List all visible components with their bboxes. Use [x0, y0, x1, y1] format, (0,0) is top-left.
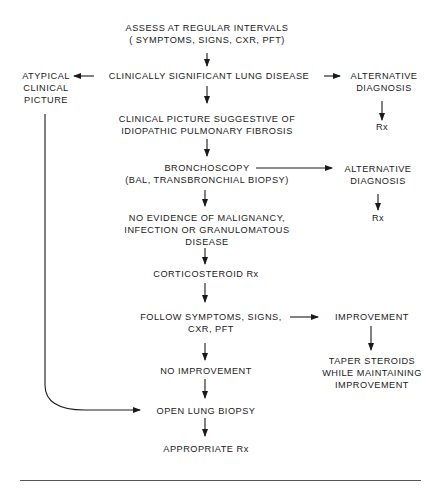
node-assess-line: ASSESS AT REGULAR INTERVALS — [126, 22, 289, 34]
node-no-evidence-line: DISEASE — [124, 236, 289, 248]
node-open-biopsy-line: OPEN LUNG BIOPSY — [157, 405, 256, 417]
node-corticosteroid: CORTICOSTEROID Rx — [153, 268, 258, 280]
node-atypical-line: ATYPICAL — [22, 70, 70, 82]
node-alt-dx-2-line: ALTERNATIVE — [345, 163, 412, 175]
node-rx-2: Rx — [372, 212, 384, 224]
node-no-evidence-line: INFECTION OR GRANULOMATOUS — [124, 224, 289, 236]
node-alt-dx-2-line: DIAGNOSIS — [345, 175, 412, 187]
node-no-evidence-line: NO EVIDENCE OF MALIGNANCY, — [124, 212, 289, 224]
node-ipf-line: CLINICAL PICTURE SUGGESTIVE OF — [119, 113, 296, 125]
node-rx-2-line: Rx — [372, 212, 384, 224]
node-alt-dx-1-line: DIAGNOSIS — [351, 82, 418, 94]
node-taper-line: IMPROVEMENT — [322, 379, 422, 391]
node-alt-dx-2: ALTERNATIVE DIAGNOSIS — [345, 163, 412, 187]
node-rx-1: Rx — [376, 121, 388, 133]
node-ipf-line: IDIOPATHIC PULMONARY FIBROSIS — [119, 125, 296, 137]
node-lung-disease: CLINICALLY SIGNIFICANT LUNG DISEASE — [109, 70, 309, 82]
node-no-improvement-line: NO IMPROVEMENT — [160, 365, 252, 377]
node-assess: ASSESS AT REGULAR INTERVALS ( SYMPTOMS, … — [126, 22, 289, 46]
node-rx-1-line: Rx — [376, 121, 388, 133]
node-follow-line: FOLLOW SYMPTOMS, SIGNS, — [140, 311, 282, 323]
node-bronchoscopy-line: BRONCHOSCOPY — [125, 162, 289, 174]
node-follow: FOLLOW SYMPTOMS, SIGNS, CXR, PFT — [140, 311, 282, 335]
node-appropriate-rx: APPROPRIATE Rx — [163, 443, 248, 455]
node-ipf: CLINICAL PICTURE SUGGESTIVE OF IDIOPATHI… — [119, 113, 296, 137]
node-no-evidence: NO EVIDENCE OF MALIGNANCY, INFECTION OR … — [124, 212, 289, 248]
node-assess-line: ( SYMPTOMS, SIGNS, CXR, PFT) — [126, 34, 289, 46]
node-alt-dx-1-line: ALTERNATIVE — [351, 70, 418, 82]
node-atypical-line: CLINICAL — [22, 82, 70, 94]
node-improvement: IMPROVEMENT — [335, 311, 409, 323]
node-bronchoscopy: BRONCHOSCOPY (BAL, TRANSBRONCHIAL BIOPSY… — [125, 162, 289, 186]
node-lung-disease-line: CLINICALLY SIGNIFICANT LUNG DISEASE — [109, 70, 309, 82]
node-taper-line: TAPER STEROIDS — [322, 355, 422, 367]
node-appropriate-rx-line: APPROPRIATE Rx — [163, 443, 248, 455]
node-improvement-line: IMPROVEMENT — [335, 311, 409, 323]
arrow-atypical-to-open-biopsy — [45, 114, 140, 410]
bottom-rule — [20, 480, 421, 481]
node-alt-dx-1: ALTERNATIVE DIAGNOSIS — [351, 70, 418, 94]
node-bronchoscopy-line: (BAL, TRANSBRONCHIAL BIOPSY) — [125, 174, 289, 186]
node-atypical: ATYPICAL CLINICAL PICTURE — [22, 70, 70, 106]
node-follow-line: CXR, PFT — [140, 323, 282, 335]
node-open-biopsy: OPEN LUNG BIOPSY — [157, 405, 256, 417]
node-taper-line: WHILE MAINTAINING — [322, 367, 422, 379]
node-no-improvement: NO IMPROVEMENT — [160, 365, 252, 377]
node-taper: TAPER STEROIDS WHILE MAINTAINING IMPROVE… — [322, 355, 422, 391]
node-atypical-line: PICTURE — [22, 94, 70, 106]
node-corticosteroid-line: CORTICOSTEROID Rx — [153, 268, 258, 280]
